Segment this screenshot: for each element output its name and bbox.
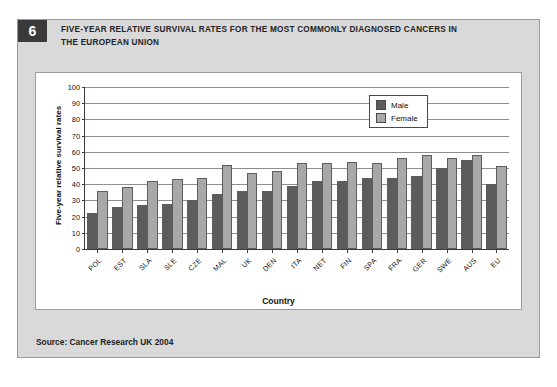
x-tick-mark <box>496 249 497 253</box>
bar-male-eu <box>486 184 496 249</box>
x-tick-label-uk: UK <box>240 256 254 270</box>
x-tick-label-sla: SLA <box>137 256 153 272</box>
bar-group: SLA <box>135 87 160 249</box>
y-tick-label: 0 <box>76 245 80 254</box>
x-tick-mark <box>197 249 198 253</box>
bar-female-mal <box>222 165 232 249</box>
bar-group: POL <box>85 87 110 249</box>
x-tick-label-mal: MAL <box>211 256 228 273</box>
y-tick-label: 20 <box>72 212 80 221</box>
y-tick-label: 10 <box>72 228 80 237</box>
bar-group: FIN <box>334 87 359 249</box>
plot-wrapper: Five-year relative survival rates 010203… <box>36 73 521 309</box>
y-tick-label: 90 <box>72 99 80 108</box>
x-tick-mark <box>422 249 423 253</box>
figure-header: 6 FIVE-YEAR RELATIVE SURVIVAL RATES FOR … <box>18 20 539 66</box>
bar-female-den <box>272 171 282 249</box>
x-tick-label-net: NET <box>311 256 328 273</box>
bar-male-aus <box>461 160 471 249</box>
bar-male-fra <box>387 178 397 249</box>
bar-group: ITA <box>285 87 310 249</box>
y-tick-label: 30 <box>72 196 80 205</box>
x-tick-mark <box>447 249 448 253</box>
x-tick-mark <box>322 249 323 253</box>
bar-male-ita <box>287 186 297 249</box>
figure-title: FIVE-YEAR RELATIVE SURVIVAL RATES FOR TH… <box>47 20 475 49</box>
figure-number-badge: 6 <box>18 20 47 42</box>
chart-panel: Five-year relative survival rates 010203… <box>35 72 522 310</box>
x-tick-label-est: EST <box>112 256 129 273</box>
legend-swatch-male <box>376 100 386 110</box>
x-axis-title: Country <box>36 296 521 306</box>
bar-group: UK <box>235 87 260 249</box>
y-tick-label: 80 <box>72 115 80 124</box>
x-tick-label-ita: ITA <box>289 256 303 270</box>
x-tick-mark <box>222 249 223 253</box>
bar-male-mal <box>212 194 222 249</box>
y-tick-label: 60 <box>72 147 80 156</box>
x-tick-mark <box>122 249 123 253</box>
bar-male-den <box>262 191 272 249</box>
bar-male-net <box>312 181 322 249</box>
bar-group: NET <box>309 87 334 249</box>
bar-male-cze <box>187 200 197 249</box>
bar-female-est <box>122 187 132 249</box>
x-tick-mark <box>272 249 273 253</box>
legend-label-male: Male <box>391 101 408 110</box>
y-tick-label: 40 <box>72 180 80 189</box>
bar-male-sla <box>137 205 147 249</box>
bar-female-fra <box>397 158 407 249</box>
x-tick-label-den: DEN <box>261 256 279 274</box>
bar-male-sle <box>162 204 172 249</box>
source-value: Cancer Research UK 2004 <box>70 337 174 347</box>
bar-female-net <box>322 163 332 249</box>
bar-female-sle <box>172 179 182 249</box>
x-tick-mark <box>247 249 248 253</box>
bar-group: EU <box>484 87 509 249</box>
bar-male-pol <box>87 213 97 249</box>
x-tick-mark <box>372 249 373 253</box>
y-tick-label: 100 <box>68 83 80 92</box>
legend-item-male: Male <box>376 100 418 110</box>
plot-area: 0102030405060708090100 POLESTSLASLECZEMA… <box>84 87 509 250</box>
bar-female-swe <box>447 158 457 249</box>
legend-label-female: Female <box>391 114 418 123</box>
bar-group: DEN <box>260 87 285 249</box>
bar-female-eu <box>496 166 506 249</box>
bar-female-fin <box>347 162 357 249</box>
bar-group: AUS <box>459 87 484 249</box>
x-tick-label-ger: GER <box>410 256 428 274</box>
bars-layer: POLESTSLASLECZEMALUKDENITANETFINSPAFRAGE… <box>85 87 509 249</box>
x-tick-label-cze: CZE <box>187 256 204 273</box>
bar-group: SWE <box>434 87 459 249</box>
bar-male-ger <box>411 176 421 249</box>
bar-male-uk <box>237 191 247 249</box>
x-tick-mark <box>472 249 473 253</box>
y-tick-label: 70 <box>72 131 80 140</box>
x-tick-label-eu: EU <box>489 256 503 270</box>
x-tick-label-pol: POL <box>87 256 104 273</box>
x-tick-label-spa: SPA <box>362 256 379 273</box>
bar-male-spa <box>362 178 372 249</box>
legend-item-female: Female <box>376 113 418 123</box>
bar-male-est <box>112 207 122 249</box>
bar-group: CZE <box>185 87 210 249</box>
x-tick-label-fra: FRA <box>386 256 403 273</box>
x-tick-mark <box>397 249 398 253</box>
bar-female-sla <box>147 181 157 249</box>
bar-female-spa <box>372 163 382 249</box>
y-tick-mark <box>82 249 85 250</box>
bar-female-cze <box>197 178 207 249</box>
x-tick-label-aus: AUS <box>461 256 478 273</box>
x-tick-mark <box>347 249 348 253</box>
source-label: Source: <box>36 337 67 347</box>
x-tick-mark <box>147 249 148 253</box>
source-line: Source: Cancer Research UK 2004 <box>36 337 173 347</box>
figure-card: 6 FIVE-YEAR RELATIVE SURVIVAL RATES FOR … <box>17 19 540 358</box>
x-tick-label-fin: FIN <box>338 256 353 271</box>
y-tick-label: 50 <box>72 164 80 173</box>
x-tick-label-sle: SLE <box>162 256 178 272</box>
x-tick-mark <box>97 249 98 253</box>
bar-female-ita <box>297 163 307 249</box>
bar-male-swe <box>436 168 446 249</box>
